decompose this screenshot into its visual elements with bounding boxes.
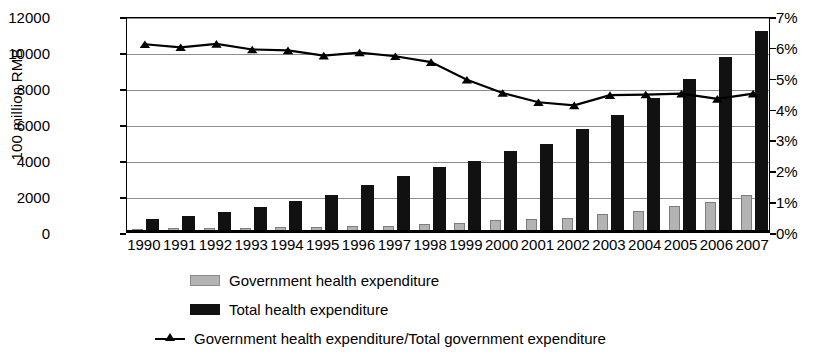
y-axis-left-tick-label: 4000 bbox=[17, 153, 57, 170]
x-axis-tick-label: 1994 bbox=[270, 236, 303, 253]
y-axis-left-tick-label: 12000 bbox=[8, 9, 57, 26]
y-axis-right-tick-label: 5% bbox=[776, 70, 798, 87]
y-axis-left-tick-label: 8000 bbox=[17, 81, 57, 98]
legend-item-ratio: Government health expenditure/Total gove… bbox=[0, 324, 829, 353]
y-axis-left-tick-label: 0 bbox=[42, 225, 57, 242]
ratio-line-path bbox=[145, 44, 753, 105]
x-axis-tick-label: 1991 bbox=[163, 236, 196, 253]
chart-legend: Government health expenditure Total heal… bbox=[0, 266, 829, 353]
y-axis-left-tick-label: 6000 bbox=[17, 117, 57, 134]
line-series-group bbox=[127, 18, 771, 234]
y-axis-right-tick-label: 7% bbox=[776, 9, 798, 26]
y-axis-right-tick-label: 1% bbox=[776, 194, 798, 211]
x-axis-tick-label: 2001 bbox=[521, 236, 554, 253]
x-axis-tick-label: 2006 bbox=[700, 236, 733, 253]
x-axis-baseline bbox=[127, 230, 769, 232]
legend-label-total: Total health expenditure bbox=[229, 301, 388, 318]
legend-label-gov: Government health expenditure bbox=[229, 272, 439, 289]
x-axis-tick-labels: 1990199119921993199419951996199719981999… bbox=[126, 236, 770, 258]
y-axis-right-tick-label: 6% bbox=[776, 39, 798, 56]
x-axis-tick-label: 2007 bbox=[735, 236, 768, 253]
y-axis-left-tick-mark bbox=[120, 233, 126, 235]
legend-item-gov: Government health expenditure bbox=[0, 266, 829, 295]
x-axis-tick-label: 2000 bbox=[485, 236, 518, 253]
x-axis-tick-label: 1996 bbox=[342, 236, 375, 253]
y-axis-left-tick-label: 2000 bbox=[17, 189, 57, 206]
x-axis-tick-label: 2003 bbox=[592, 236, 625, 253]
x-axis-tick-label: 1992 bbox=[199, 236, 232, 253]
x-axis-tick-label: 2005 bbox=[664, 236, 697, 253]
legend-item-total: Total health expenditure bbox=[0, 295, 829, 324]
x-axis-tick-label: 1995 bbox=[306, 236, 339, 253]
plot-area bbox=[126, 17, 770, 233]
y-axis-right-tick-label: 4% bbox=[776, 101, 798, 118]
x-axis-tick-label: 2002 bbox=[557, 236, 590, 253]
x-axis-tick-label: 1993 bbox=[235, 236, 268, 253]
y-axis-left-tick-label: 10000 bbox=[8, 45, 57, 62]
x-axis-tick-label: 1998 bbox=[413, 236, 446, 253]
gov-swatch-icon bbox=[190, 275, 220, 286]
chart-container: 100 million RMB 020004000600080001000012… bbox=[0, 0, 829, 354]
x-axis-tick-label: 2004 bbox=[628, 236, 661, 253]
x-axis-tick-label: 1999 bbox=[449, 236, 482, 253]
line-triangle-marker-icon bbox=[155, 333, 185, 345]
x-axis-tick-label: 1997 bbox=[378, 236, 411, 253]
y-axis-right-tick-label: 0% bbox=[776, 225, 798, 242]
y-axis-right-tick-label: 2% bbox=[776, 163, 798, 180]
y-axis-right-tick-label: 3% bbox=[776, 132, 798, 149]
total-swatch-icon bbox=[190, 304, 220, 315]
x-axis-tick-label: 1990 bbox=[127, 236, 160, 253]
legend-label-ratio: Government health expenditure/Total gove… bbox=[194, 330, 606, 347]
